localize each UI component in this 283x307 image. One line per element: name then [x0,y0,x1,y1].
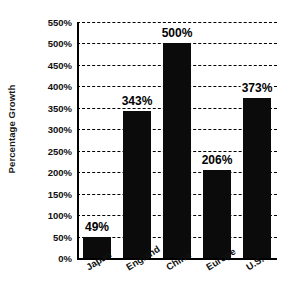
y-tick-label: 250% [22,145,72,156]
y-tick-label: 550% [22,17,72,28]
y-tick-label: 450% [22,59,72,70]
y-tick-label: 500% [22,38,72,49]
bar[interactable] [163,43,191,258]
bar-value-label: 49% [84,221,110,234]
y-tick-label: 50% [22,231,72,242]
bar-value-label: 373% [241,82,274,95]
x-axis-category-labels: JapanEnglandChinaEuropeU.S. [77,259,277,307]
bar-value-label: 343% [121,95,154,108]
y-tick-label: 0% [22,253,72,264]
bar-value-label: 206% [201,154,234,167]
bar-chart: Percentage Growth 550% 500% 450% 400% 35… [0,0,283,307]
bar[interactable] [123,111,151,258]
y-tick-label: 350% [22,102,72,113]
y-tick-label: 300% [22,124,72,135]
y-tick-label: 150% [22,188,72,199]
y-tick-label: 100% [22,210,72,221]
y-tick-label: 200% [22,167,72,178]
bar-value-label: 500% [161,27,194,40]
y-tick-label: 400% [22,81,72,92]
bar[interactable] [243,98,271,258]
bar[interactable] [203,170,231,258]
y-axis-title: Percentage Growth [0,0,22,258]
